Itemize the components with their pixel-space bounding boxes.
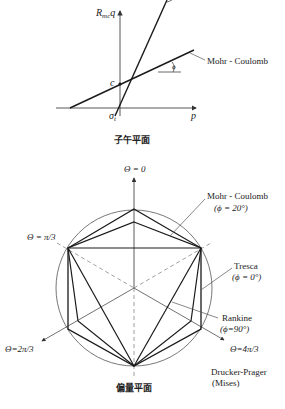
theta-2pi3-axis bbox=[42, 288, 134, 341]
mc-leader-dev bbox=[170, 199, 205, 236]
tresca-param: (ϕ = 0°) bbox=[232, 272, 261, 282]
deviatoric-plane: Θ = 0 Θ = π/3 Θ=2π/3 Θ=4π/3 Mohr - Coulo… bbox=[5, 164, 269, 393]
rankine-param: (ϕ=90°) bbox=[220, 324, 249, 334]
theta-2pi3-label: Θ=2π/3 bbox=[5, 344, 34, 354]
cohesion-point bbox=[118, 82, 121, 85]
meridian-plane: Rmcq c σt p ϕ Mohr - Coulomb 子午平面 bbox=[56, 0, 269, 145]
p-axis-label: p bbox=[190, 110, 196, 121]
cohesion-label: c bbox=[110, 77, 115, 88]
rankine-leader bbox=[172, 302, 218, 318]
tension-sub: t bbox=[114, 115, 117, 123]
angle-label: ϕ bbox=[172, 63, 176, 71]
tresca-label: Tresca bbox=[234, 261, 258, 271]
mohr-coulomb-line bbox=[70, 50, 194, 108]
deviatoric-caption: 偏量平面 bbox=[116, 382, 152, 393]
theta-pi3-label: Θ = π/3 bbox=[27, 232, 56, 242]
svg-text:Rmcq: Rmcq bbox=[95, 7, 115, 20]
rankine-left bbox=[68, 248, 134, 366]
rankine-label: Rankine bbox=[222, 313, 252, 323]
svg-text:σt: σt bbox=[109, 110, 117, 123]
yield-criteria-diagram: Rmcq c σt p ϕ Mohr - Coulomb 子午平面 bbox=[0, 0, 285, 409]
drucker-prager-param: (Mises) bbox=[212, 378, 240, 388]
y-axis-label: R bbox=[95, 7, 102, 18]
theta0-label: Θ = 0 bbox=[124, 164, 146, 174]
meridian-caption: 子午平面 bbox=[114, 134, 150, 145]
mohr-coulomb-label: Mohr - Coulomb bbox=[207, 56, 269, 66]
mc-dev-label: Mohr - Coulomb bbox=[207, 191, 269, 201]
y-axis-var: q bbox=[110, 7, 115, 18]
tresca-leader bbox=[201, 268, 232, 290]
mc-dev-param: (ϕ = 20°) bbox=[214, 203, 248, 213]
rankine-right bbox=[134, 248, 201, 366]
steep-line bbox=[115, 0, 167, 116]
mohr-coulomb-hexagon bbox=[68, 222, 201, 366]
drucker-prager-label: Drucker-Prager bbox=[211, 367, 267, 377]
theta-4pi3-label: Θ=4π/3 bbox=[230, 344, 259, 354]
mc-leader bbox=[190, 53, 205, 60]
theta-4pi3-axis bbox=[134, 288, 224, 340]
